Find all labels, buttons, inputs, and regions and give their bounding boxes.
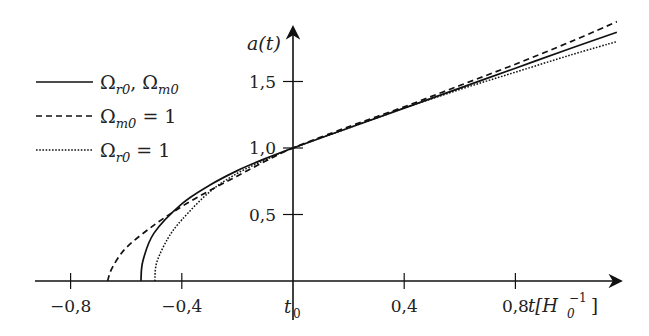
- y-tick-label: 1,5: [249, 72, 276, 92]
- series-line-dotted: [155, 42, 617, 281]
- legend-label: Ωr0, Ωm0: [100, 71, 179, 97]
- x-tick-label: −0,4: [161, 296, 202, 316]
- series-line-solid: [141, 32, 617, 281]
- y-tick-label: 0,5: [249, 205, 276, 225]
- x-tick-label: 0,8: [502, 296, 529, 316]
- data-series: [108, 22, 617, 281]
- y-axis-label: a(t): [247, 32, 281, 54]
- y-tick-label: 1,0: [249, 138, 276, 158]
- svg-text:]: ]: [591, 295, 598, 316]
- x-tick-label: t: [284, 296, 292, 317]
- x-tick-label-sub: 0: [293, 307, 301, 321]
- svg-text:−1: −1: [569, 291, 587, 305]
- x-axis-label: t[H 0 −1 ]: [528, 291, 598, 321]
- x-tick-label: 0,4: [391, 296, 418, 316]
- series-line-dashed: [108, 22, 617, 281]
- svg-text:t[H: t[H: [528, 295, 558, 316]
- svg-text:0: 0: [567, 307, 575, 321]
- legend-label: Ωm0 = 1: [100, 105, 176, 131]
- chart: −0,8−0,4t00,40,8 0,51,01,5 a(t) t[H 0 −1…: [0, 0, 649, 336]
- legend-label: Ωr0 = 1: [100, 139, 170, 165]
- x-tick-label: −0,8: [50, 296, 91, 316]
- legend: Ωr0, Ωm0Ωm0 = 1Ωr0 = 1: [36, 71, 179, 165]
